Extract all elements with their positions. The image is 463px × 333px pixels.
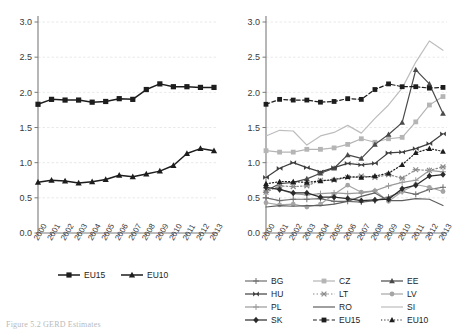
marker-triangle <box>399 120 405 125</box>
figure-gerd-estimates: 0.00.51.01.52.02.53.02000200120022003200… <box>0 0 463 333</box>
legend-item-si[interactable]: SI <box>381 302 415 312</box>
legend-item-ee[interactable]: EE <box>381 276 419 286</box>
y-tick-label: 3.0 <box>19 17 32 27</box>
marker-square <box>441 94 446 99</box>
marker-plus <box>386 183 392 189</box>
y-tick-label: 1.5 <box>19 123 32 133</box>
x-tick-label: 2013 <box>437 222 454 242</box>
legend-label: LT <box>339 289 348 299</box>
marker-circle <box>441 189 446 194</box>
marker-diamond <box>427 173 433 179</box>
marker-square <box>90 100 95 105</box>
marker-square <box>441 85 446 90</box>
legend-item-bg[interactable]: BG <box>245 276 283 286</box>
marker-square <box>264 102 269 107</box>
marker-square <box>400 84 405 89</box>
data-series-group <box>35 81 217 185</box>
marker-asterisk <box>413 167 419 172</box>
legend-item-ro[interactable]: RO <box>313 302 352 312</box>
legend-label: RO <box>339 302 352 312</box>
marker-square <box>62 97 67 102</box>
series-eu15 <box>35 81 216 107</box>
legend-label: CZ <box>339 276 350 286</box>
axis-labels: 0.00.51.01.52.02.53.02000200120022003200… <box>19 17 224 242</box>
figure-caption: Figure 5.2 GERD Estimates <box>6 320 101 329</box>
series-lt <box>263 164 446 194</box>
y-tick-label: 0.0 <box>247 228 260 238</box>
marker-square <box>322 318 327 323</box>
marker-triangle <box>427 146 433 151</box>
grid-lines <box>266 22 447 198</box>
marker-bowtie <box>358 162 364 167</box>
marker-diamond <box>359 197 365 203</box>
marker-square <box>49 97 54 102</box>
legend-item-cz[interactable]: CZ <box>313 276 350 286</box>
marker-circle <box>427 185 432 190</box>
marker-square <box>322 279 327 284</box>
marker-square <box>277 150 282 155</box>
marker-square <box>144 87 149 92</box>
marker-square <box>103 99 108 104</box>
legend-item-eu15[interactable]: EU15 <box>58 270 106 280</box>
marker-square <box>211 85 216 90</box>
y-tick-label: 2.5 <box>19 52 32 62</box>
legend-label: LV <box>407 289 417 299</box>
series-si <box>266 41 443 145</box>
marker-diamond <box>413 182 419 188</box>
marker-square <box>291 98 296 103</box>
marker-square <box>66 272 71 277</box>
marker-square <box>427 103 432 108</box>
legend-item-eu15[interactable]: EU15 <box>313 315 361 325</box>
legend-item-lt[interactable]: LT <box>313 289 348 299</box>
series-line <box>266 41 443 145</box>
marker-square <box>117 96 122 101</box>
legend-item-pl[interactable]: PL <box>245 302 282 312</box>
legend-label: EU15 <box>84 270 106 280</box>
marker-square <box>386 136 391 141</box>
marker-triangle <box>331 177 337 182</box>
marker-plus <box>413 191 419 197</box>
x-tick-label: 2011 <box>410 222 427 242</box>
legend-item-lv[interactable]: LV <box>381 289 417 299</box>
marker-square <box>359 136 364 141</box>
legend-item-eu10[interactable]: EU10 <box>381 315 429 325</box>
marker-bowtie <box>345 161 351 166</box>
marker-bowtie <box>253 292 259 297</box>
marker-square <box>76 97 81 102</box>
marker-circle <box>264 200 269 205</box>
marker-square <box>264 148 269 153</box>
marker-circle <box>277 202 282 207</box>
marker-plus <box>263 195 269 201</box>
line-chart-eu15-eu10: 0.00.51.01.52.02.53.02000200120022003200… <box>0 0 231 300</box>
marker-square <box>413 84 418 89</box>
marker-square <box>171 84 176 89</box>
marker-square <box>359 97 364 102</box>
legend-item-sk[interactable]: SK <box>245 315 283 325</box>
legend-label: PL <box>271 302 282 312</box>
marker-triangle <box>440 148 446 153</box>
y-tick-label: 0.0 <box>19 228 32 238</box>
legend-label: EU15 <box>339 315 361 325</box>
y-tick-label: 0.5 <box>19 193 32 203</box>
marker-bowtie <box>304 165 310 170</box>
line-chart-countries: 0.00.51.01.52.02.53.02000200120022003200… <box>231 0 463 333</box>
y-tick-label: 2.0 <box>19 88 32 98</box>
marker-asterisk <box>440 164 446 169</box>
y-tick-label: 1.0 <box>247 158 260 168</box>
y-tick-label: 1.0 <box>19 158 32 168</box>
legend-label: SI <box>407 302 415 312</box>
marker-square <box>427 86 432 91</box>
y-tick-label: 3.0 <box>247 17 260 27</box>
series-eu10 <box>35 145 217 185</box>
legend-item-eu10[interactable]: EU10 <box>121 270 169 280</box>
legend-item-hu[interactable]: HU <box>245 289 283 299</box>
marker-square <box>332 99 337 104</box>
legend-label: EU10 <box>407 315 429 325</box>
marker-square <box>184 84 189 89</box>
x-tick-label: 2013 <box>208 222 225 242</box>
marker-square <box>35 102 40 107</box>
marker-asterisk <box>321 292 327 297</box>
series-eu15 <box>264 81 446 106</box>
marker-diamond <box>440 171 446 177</box>
marker-square <box>157 81 162 86</box>
